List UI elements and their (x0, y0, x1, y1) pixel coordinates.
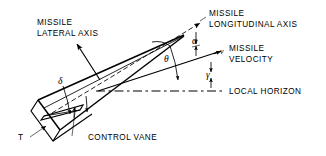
theta-symbol: θ (164, 54, 169, 64)
missile-longitudinal-axis-label-line2: LONGITUDINAL AXIS (209, 20, 297, 29)
local-horizon-label: LOCAL HORIZON (229, 87, 301, 96)
longitudinal-axis-leader (200, 17, 206, 21)
velocity-vector-symbol: v (220, 47, 224, 56)
control-vane-leader-line (72, 112, 75, 136)
thrust-arrow (30, 126, 46, 137)
gamma-symbol: γ (206, 70, 210, 80)
missile-lateral-axis (77, 44, 100, 80)
missile-lateral-axis-label-line2: LATERAL AXIS (37, 29, 98, 38)
missile-longitudinal-axis-label-line1: MISSILE (209, 9, 245, 18)
missile-tail-box (31, 100, 60, 141)
missile-body-inner-edge (44, 37, 182, 108)
diagram-canvas: MISSILE LATERAL AXIS MISSILE LONGITUDINA… (0, 0, 326, 156)
lateral-axis-arrow (77, 44, 100, 80)
thrust-label: T (18, 133, 23, 142)
control-vane-label: CONTROL VANE (88, 133, 157, 142)
missile-lateral-axis-label-line1: MISSILE (37, 18, 73, 27)
theta-arrow-down (170, 46, 178, 80)
alpha-symbol: α (192, 36, 198, 46)
missile-velocity-label-line1: MISSILE (229, 44, 265, 53)
thrust-vector (30, 126, 46, 137)
delta-symbol: δ (58, 76, 63, 86)
missile-geometry-diagram: MISSILE LATERAL AXIS MISSILE LONGITUDINA… (0, 0, 326, 156)
missile-velocity-label-line2: VELOCITY (229, 55, 273, 64)
control-vane-leader (72, 112, 75, 136)
missile-body-upper-edge (38, 35, 184, 100)
velocity-ray-line (98, 52, 218, 91)
